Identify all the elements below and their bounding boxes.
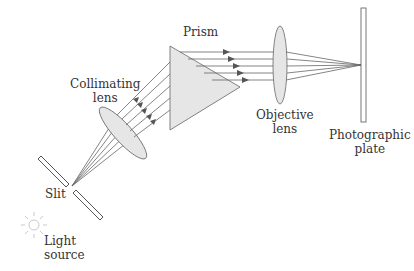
spectrograph-diagram: Prism Collimating lens Objective lens Ph… — [0, 0, 414, 271]
light-source-label-line1: Light — [44, 234, 85, 248]
light-source-label: Light source — [44, 234, 85, 262]
objective-lens-icon — [273, 26, 287, 104]
photographic-plate-label-line1: Photographic — [329, 128, 411, 142]
collimating-lens-label: Collimating lens — [70, 77, 141, 105]
light-source-label-line2: source — [44, 248, 85, 262]
photographic-plate-label: Photographic plate — [329, 128, 411, 156]
objective-lens-label-line1: Objective — [256, 108, 314, 122]
photographic-plate-icon — [361, 8, 366, 122]
converging-rays — [286, 52, 361, 80]
photographic-plate-label-line2: plate — [329, 142, 411, 156]
objective-lens-label: Objective lens — [256, 108, 314, 136]
objective-lens-label-line2: lens — [256, 122, 314, 136]
slit-label: Slit — [45, 187, 66, 201]
collimating-lens-label-line2: lens — [70, 91, 141, 105]
prism-label: Prism — [183, 25, 218, 39]
collimating-lens-label-line1: Collimating — [70, 77, 141, 91]
